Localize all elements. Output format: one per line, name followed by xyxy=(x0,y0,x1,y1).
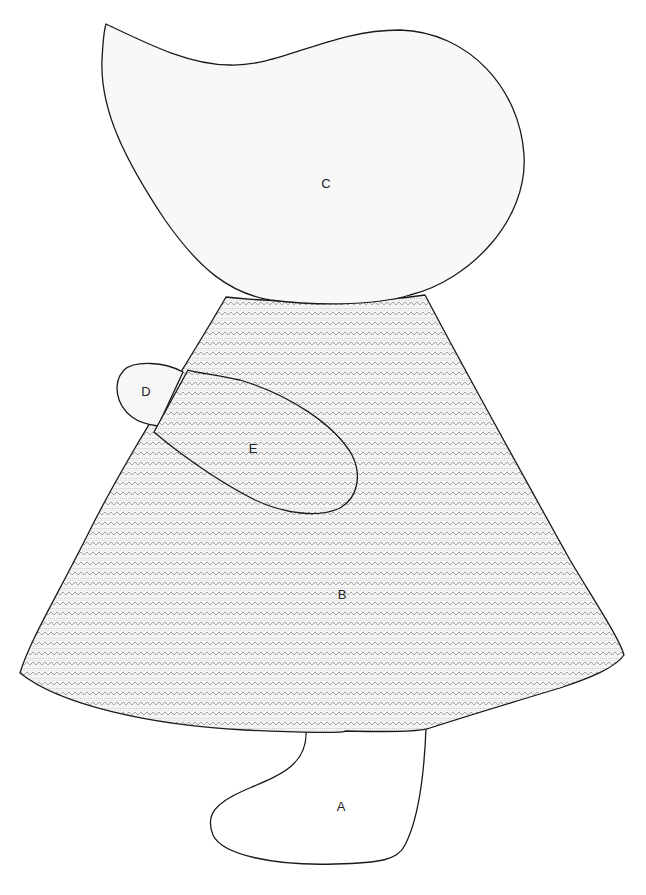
label-a: A xyxy=(337,799,346,814)
piece-a-shoe: A xyxy=(210,728,426,864)
applique-diagram: A B D E C xyxy=(0,0,646,895)
label-e: E xyxy=(249,441,258,456)
piece-c-bonnet: C xyxy=(102,24,524,304)
label-c: C xyxy=(321,176,330,191)
label-d: D xyxy=(141,384,150,399)
label-b: B xyxy=(338,587,347,602)
